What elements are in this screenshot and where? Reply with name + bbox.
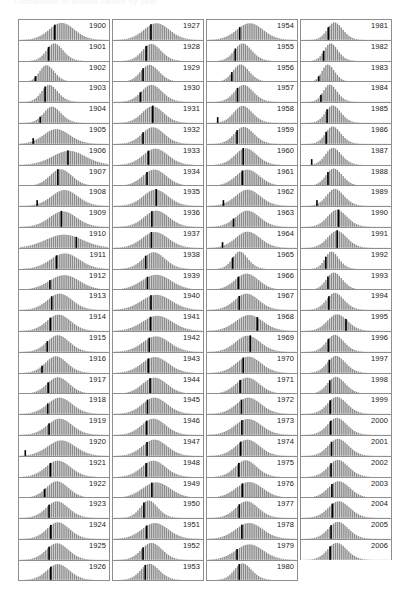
year-panel[interactable]: 1984 (300, 81, 392, 102)
year-panel[interactable]: 1994 (300, 289, 392, 310)
year-panel[interactable]: 2001 (300, 435, 392, 456)
year-panel[interactable]: 1986 (300, 123, 392, 144)
year-panel[interactable]: 1973 (206, 414, 298, 435)
year-panel[interactable]: 1943 (112, 352, 204, 373)
year-panel[interactable]: 1979 (206, 539, 298, 560)
year-panel[interactable]: 1931 (112, 102, 204, 123)
year-panel[interactable]: 1933 (112, 144, 204, 165)
year-panel[interactable]: 2006 (300, 539, 392, 560)
year-panel[interactable]: 1907 (18, 165, 110, 186)
year-panel[interactable]: 1989 (300, 185, 392, 206)
year-panel[interactable]: 1934 (112, 165, 204, 186)
year-panel[interactable]: 2004 (300, 497, 392, 518)
year-panel[interactable]: 1932 (112, 123, 204, 144)
year-panel[interactable]: 1976 (206, 477, 298, 498)
year-panel[interactable]: 1912 (18, 269, 110, 290)
year-panel[interactable]: 1999 (300, 393, 392, 414)
year-panel[interactable]: 1940 (112, 289, 204, 310)
year-panel[interactable]: 1977 (206, 497, 298, 518)
year-panel[interactable]: 1995 (300, 310, 392, 331)
year-panel[interactable]: 1953 (112, 560, 204, 581)
year-panel[interactable]: 1970 (206, 352, 298, 373)
year-panel[interactable]: 1975 (206, 456, 298, 477)
year-panel[interactable]: 1909 (18, 206, 110, 227)
year-panel[interactable]: 1911 (18, 248, 110, 269)
year-panel[interactable]: 1998 (300, 373, 392, 394)
year-panel[interactable]: 1900 (18, 19, 110, 40)
year-panel[interactable]: 1925 (18, 539, 110, 560)
year-panel[interactable]: 2000 (300, 414, 392, 435)
year-panel[interactable]: 1966 (206, 269, 298, 290)
year-panel[interactable]: 2003 (300, 477, 392, 498)
year-panel[interactable]: 1930 (112, 81, 204, 102)
year-panel[interactable]: 1991 (300, 227, 392, 248)
year-panel[interactable]: 1918 (18, 393, 110, 414)
year-panel[interactable]: 1917 (18, 373, 110, 394)
year-panel[interactable]: 1902 (18, 61, 110, 82)
year-panel[interactable]: 1971 (206, 373, 298, 394)
year-panel[interactable]: 1992 (300, 248, 392, 269)
year-panel[interactable]: 1927 (112, 19, 204, 40)
year-panel[interactable]: 1954 (206, 19, 298, 40)
year-panel[interactable]: 1983 (300, 61, 392, 82)
year-panel[interactable]: 1956 (206, 61, 298, 82)
year-panel[interactable]: 1963 (206, 206, 298, 227)
year-panel[interactable]: 1972 (206, 393, 298, 414)
year-panel[interactable]: 1990 (300, 206, 392, 227)
year-panel[interactable]: 1908 (18, 185, 110, 206)
year-panel[interactable]: 2005 (300, 518, 392, 539)
year-panel[interactable]: 1901 (18, 40, 110, 61)
year-panel[interactable]: 1982 (300, 40, 392, 61)
year-panel[interactable]: 1981 (300, 19, 392, 40)
year-panel[interactable]: 1903 (18, 81, 110, 102)
year-panel[interactable]: 1935 (112, 185, 204, 206)
year-panel[interactable]: 1904 (18, 102, 110, 123)
year-panel[interactable]: 1993 (300, 269, 392, 290)
year-panel[interactable]: 1922 (18, 477, 110, 498)
year-panel[interactable]: 1926 (18, 560, 110, 581)
year-panel[interactable]: 1985 (300, 102, 392, 123)
year-panel[interactable]: 1951 (112, 518, 204, 539)
year-panel[interactable]: 1924 (18, 518, 110, 539)
year-panel[interactable]: 1915 (18, 331, 110, 352)
year-panel[interactable]: 1961 (206, 165, 298, 186)
year-panel[interactable]: 1955 (206, 40, 298, 61)
year-panel[interactable]: 1905 (18, 123, 110, 144)
year-panel[interactable]: 1936 (112, 206, 204, 227)
year-panel[interactable]: 1948 (112, 456, 204, 477)
year-panel[interactable]: 1950 (112, 497, 204, 518)
year-panel[interactable]: 1957 (206, 81, 298, 102)
year-panel[interactable]: 1921 (18, 456, 110, 477)
year-panel[interactable]: 1967 (206, 289, 298, 310)
year-panel[interactable]: 1997 (300, 352, 392, 373)
year-panel[interactable]: 1949 (112, 477, 204, 498)
year-panel[interactable]: 1974 (206, 435, 298, 456)
year-panel[interactable]: 1928 (112, 40, 204, 61)
year-panel[interactable]: 1959 (206, 123, 298, 144)
year-panel[interactable]: 1980 (206, 560, 298, 581)
year-panel[interactable]: 1945 (112, 393, 204, 414)
year-panel[interactable]: 1968 (206, 310, 298, 331)
year-panel[interactable]: 1996 (300, 331, 392, 352)
year-panel[interactable]: 1913 (18, 289, 110, 310)
year-panel[interactable]: 1958 (206, 102, 298, 123)
year-panel[interactable]: 1938 (112, 248, 204, 269)
year-panel[interactable]: 1965 (206, 248, 298, 269)
year-panel[interactable]: 2002 (300, 456, 392, 477)
year-panel[interactable]: 1906 (18, 144, 110, 165)
year-panel[interactable]: 1919 (18, 414, 110, 435)
year-panel[interactable]: 1914 (18, 310, 110, 331)
year-panel[interactable]: 1910 (18, 227, 110, 248)
year-panel[interactable]: 1941 (112, 310, 204, 331)
year-panel[interactable]: 1964 (206, 227, 298, 248)
year-panel[interactable]: 1923 (18, 497, 110, 518)
year-panel[interactable]: 1920 (18, 435, 110, 456)
year-panel[interactable]: 1916 (18, 352, 110, 373)
year-panel[interactable]: 1946 (112, 414, 204, 435)
year-panel[interactable]: 1960 (206, 144, 298, 165)
year-panel[interactable]: 1978 (206, 518, 298, 539)
year-panel[interactable]: 1929 (112, 61, 204, 82)
year-panel[interactable]: 1944 (112, 373, 204, 394)
year-panel[interactable]: 1947 (112, 435, 204, 456)
year-panel[interactable]: 1962 (206, 185, 298, 206)
